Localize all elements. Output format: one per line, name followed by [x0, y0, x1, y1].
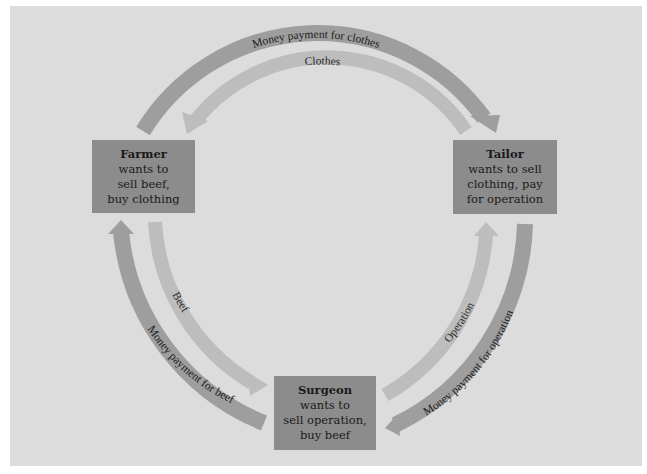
farmer-line: wants to: [96, 162, 191, 177]
farmer-node: Farmer wants to sell beef, buy clothing: [92, 140, 195, 213]
tailor-node: Tailor wants to sell clothing, pay for o…: [453, 140, 557, 214]
surgeon-line: wants to: [278, 398, 372, 413]
tailor-name: Tailor: [457, 147, 553, 162]
farmer-line: buy clothing: [96, 192, 191, 207]
surgeon-name: Surgeon: [278, 383, 372, 398]
farmer-name: Farmer: [96, 147, 191, 162]
operation-label: Operation: [441, 300, 476, 344]
tailor-line: wants to sell: [457, 162, 553, 177]
surgeon-line: sell operation,: [278, 413, 372, 428]
surgeon-node: Surgeon wants to sell operation, buy bee…: [274, 376, 376, 450]
surgeon-line: buy beef: [278, 428, 372, 443]
beef-arrow: [155, 222, 268, 396]
tailor-line: clothing, pay: [457, 177, 553, 192]
tailor-line: for operation: [457, 192, 553, 207]
farmer-line: sell beef,: [96, 177, 191, 192]
